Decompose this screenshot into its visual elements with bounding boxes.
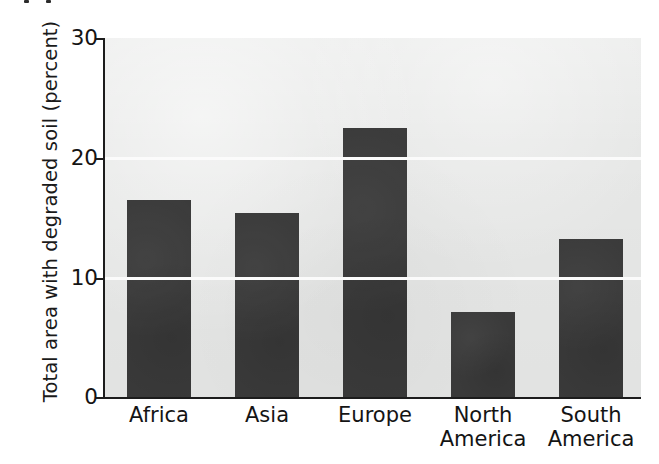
bar-europe[interactable]: [343, 128, 407, 397]
y-tick-label-20: 20: [56, 147, 98, 169]
x-tick-label-south-america: South America: [524, 404, 658, 451]
plot-area: [105, 38, 641, 397]
artifact-mark-left: [24, 0, 29, 3]
x-tick-label-south-america-line1: South: [560, 403, 621, 427]
gridline-10: [105, 277, 641, 280]
x-tick-label-north-america-line1: North: [454, 403, 513, 427]
bar-asia[interactable]: [235, 213, 299, 397]
bar-africa[interactable]: [127, 200, 191, 397]
artifact-mark-right: [46, 0, 51, 3]
x-tick-label-asia-line1: Asia: [245, 403, 289, 427]
x-tick-label-south-america-line2: America: [524, 428, 658, 452]
x-axis-line: [103, 397, 641, 399]
x-tick-label-africa-line1: Africa: [129, 403, 189, 427]
gridline-20: [105, 157, 641, 160]
y-tick-label-30: 30: [56, 27, 98, 49]
y-tick-label-10: 10: [56, 267, 98, 289]
bar-south-america[interactable]: [559, 239, 623, 397]
bar-north-america[interactable]: [451, 312, 515, 397]
bar-chart-figure: Total area with degraded soil (percent) …: [0, 0, 659, 464]
y-axis-tick-label-group: 30 20 10 0: [56, 0, 98, 464]
x-tick-label-europe-line1: Europe: [338, 403, 412, 427]
